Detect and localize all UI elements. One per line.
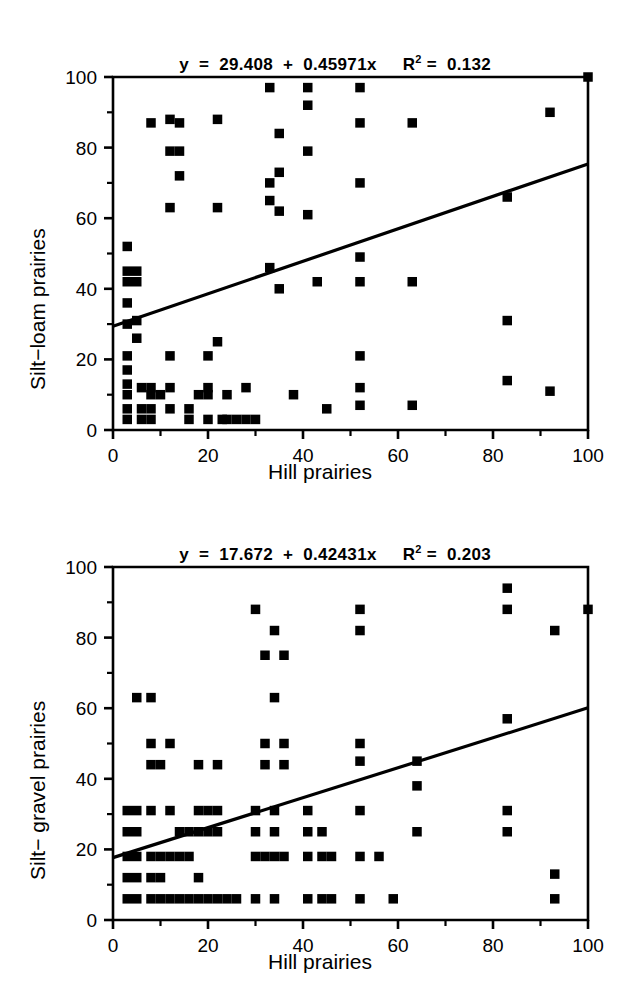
data-points bbox=[123, 583, 593, 903]
data-point bbox=[327, 852, 337, 862]
y-tick-label: 100 bbox=[65, 67, 97, 88]
data-point bbox=[550, 894, 560, 904]
data-point bbox=[123, 351, 133, 361]
data-point bbox=[355, 626, 365, 636]
data-point bbox=[194, 827, 204, 837]
y-tick-label: 80 bbox=[76, 138, 97, 159]
data-point bbox=[213, 827, 223, 837]
data-point bbox=[194, 760, 204, 770]
data-point bbox=[270, 827, 280, 837]
data-point bbox=[137, 383, 147, 393]
y-tick-label: 60 bbox=[76, 698, 97, 719]
y-tick-label: 20 bbox=[76, 839, 97, 860]
figure-scatter-pair: y = 29.408 + 0.45971xR2 = 0.132 02040608… bbox=[0, 0, 640, 1002]
data-point bbox=[132, 852, 142, 862]
data-point bbox=[222, 390, 232, 400]
y-axis-label-bottom: Silt− gravel prairies bbox=[26, 701, 50, 880]
data-point bbox=[270, 693, 280, 703]
data-point bbox=[146, 806, 156, 816]
data-point bbox=[156, 390, 166, 400]
data-point bbox=[317, 827, 327, 837]
data-point bbox=[194, 390, 204, 400]
data-point bbox=[184, 894, 194, 904]
data-point bbox=[146, 894, 156, 904]
data-point bbox=[132, 277, 142, 287]
data-point bbox=[303, 894, 313, 904]
data-point bbox=[270, 806, 280, 816]
data-point bbox=[355, 178, 365, 188]
data-point bbox=[175, 146, 185, 156]
data-point bbox=[241, 415, 251, 425]
data-point bbox=[146, 739, 156, 749]
data-point bbox=[275, 284, 285, 294]
data-point bbox=[503, 827, 513, 837]
data-point bbox=[251, 852, 261, 862]
data-point bbox=[146, 852, 156, 862]
data-point bbox=[156, 760, 166, 770]
data-point bbox=[408, 118, 418, 128]
data-point bbox=[355, 351, 365, 361]
data-point bbox=[184, 852, 194, 862]
data-point bbox=[503, 605, 513, 615]
data-point bbox=[265, 178, 275, 188]
data-point bbox=[194, 894, 204, 904]
data-point bbox=[146, 873, 156, 883]
data-point bbox=[222, 415, 232, 425]
data-point bbox=[146, 118, 156, 128]
data-point bbox=[123, 852, 133, 862]
y-tick-label: 80 bbox=[76, 628, 97, 649]
data-point bbox=[412, 781, 422, 791]
data-point bbox=[203, 415, 213, 425]
data-point bbox=[303, 806, 313, 816]
data-point bbox=[132, 894, 142, 904]
data-point bbox=[270, 626, 280, 636]
data-point bbox=[165, 852, 175, 862]
data-point bbox=[251, 827, 261, 837]
data-point bbox=[194, 873, 204, 883]
data-point bbox=[146, 415, 156, 425]
data-point bbox=[260, 651, 270, 661]
data-point bbox=[317, 894, 327, 904]
data-point bbox=[355, 118, 365, 128]
data-point bbox=[545, 386, 555, 396]
data-point bbox=[175, 171, 185, 181]
data-point bbox=[123, 266, 133, 276]
data-point bbox=[123, 806, 133, 816]
data-point bbox=[289, 390, 299, 400]
plot-area-top: 020406080100020406080100 bbox=[0, 0, 640, 470]
data-point bbox=[123, 827, 133, 837]
data-point bbox=[184, 415, 194, 425]
data-point bbox=[303, 210, 313, 220]
data-point bbox=[165, 203, 175, 213]
data-point bbox=[123, 242, 133, 252]
data-point bbox=[408, 277, 418, 287]
data-point bbox=[355, 739, 365, 749]
data-point bbox=[503, 316, 513, 326]
data-point bbox=[132, 693, 142, 703]
data-point bbox=[132, 266, 142, 276]
data-point bbox=[270, 852, 280, 862]
data-point bbox=[175, 852, 185, 862]
data-point bbox=[251, 605, 261, 615]
data-point bbox=[355, 852, 365, 862]
data-point bbox=[303, 852, 313, 862]
data-point bbox=[123, 365, 133, 375]
y-tick-label: 40 bbox=[76, 769, 97, 790]
data-point bbox=[146, 760, 156, 770]
data-point bbox=[355, 277, 365, 287]
data-point bbox=[503, 376, 513, 386]
data-point bbox=[232, 415, 242, 425]
data-point bbox=[123, 894, 133, 904]
data-point bbox=[132, 806, 142, 816]
data-point bbox=[355, 605, 365, 615]
data-point bbox=[279, 852, 289, 862]
data-point bbox=[175, 894, 185, 904]
data-point bbox=[550, 626, 560, 636]
data-point bbox=[137, 404, 147, 414]
data-point bbox=[156, 873, 166, 883]
data-point bbox=[303, 100, 313, 110]
data-point bbox=[389, 894, 399, 904]
data-point bbox=[132, 333, 142, 343]
data-point bbox=[132, 873, 142, 883]
data-point bbox=[146, 390, 156, 400]
